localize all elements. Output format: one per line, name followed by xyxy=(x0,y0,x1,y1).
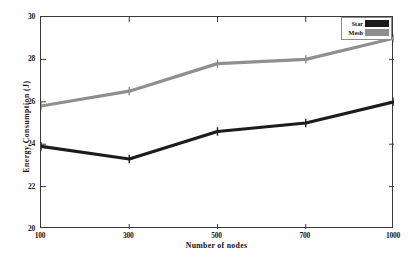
data-point-marker xyxy=(41,142,44,150)
axis-ticks xyxy=(41,17,394,229)
x-tick-label: 500 xyxy=(211,231,222,240)
legend-item-star: Star xyxy=(344,20,389,28)
plot-area xyxy=(40,16,393,228)
data-point-marker xyxy=(303,55,309,63)
chart-legend: StarMesh xyxy=(341,17,392,40)
x-tick-label: 300 xyxy=(123,231,134,240)
data-point-marker xyxy=(214,59,220,67)
y-axis-title: Energy Consumption (J) xyxy=(22,57,31,197)
legend-label: Mesh xyxy=(349,29,363,37)
legend-color-swatch xyxy=(365,29,389,36)
data-point-marker xyxy=(391,98,394,106)
y-tick-label: 30 xyxy=(28,12,35,21)
x-tick-label: 1000 xyxy=(386,231,400,240)
data-point-marker xyxy=(126,87,132,95)
x-tick-label: 700 xyxy=(299,231,310,240)
legend-label: Star xyxy=(352,20,363,28)
legend-item-mesh: Mesh xyxy=(344,29,389,37)
y-axis-tick-labels: 202224262830 xyxy=(0,0,40,259)
legend-color-swatch xyxy=(365,20,389,27)
data-point-marker xyxy=(126,155,132,163)
series-line xyxy=(41,38,394,106)
x-axis-title: Number of nodes xyxy=(40,241,393,250)
data-point-marker xyxy=(303,119,309,127)
series-mesh xyxy=(41,34,394,110)
series-layer xyxy=(41,34,394,163)
data-point-marker xyxy=(41,102,44,110)
x-tick-label: 100 xyxy=(35,231,46,240)
plot-svg xyxy=(41,17,394,229)
data-point-marker xyxy=(214,127,220,135)
series-star xyxy=(41,98,394,164)
energy-consumption-line-chart: 202224262830 Energy Consumption (J) 1003… xyxy=(0,0,415,259)
